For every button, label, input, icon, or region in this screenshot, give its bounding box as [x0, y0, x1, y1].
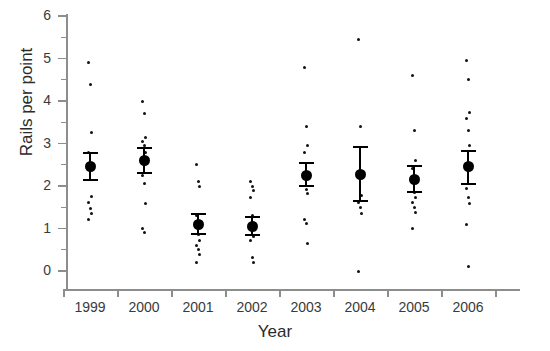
y-tick-major	[58, 185, 66, 187]
data-point	[251, 185, 254, 188]
data-point	[143, 112, 146, 115]
error-bar-cap-lower	[83, 179, 98, 181]
data-point	[413, 129, 416, 132]
data-point	[252, 261, 255, 264]
data-point	[467, 129, 470, 132]
x-tick-major	[63, 289, 65, 297]
data-point	[144, 202, 147, 205]
data-point	[468, 202, 471, 205]
data-point	[414, 159, 417, 162]
x-axis-title: Year	[0, 322, 550, 342]
data-point	[305, 222, 308, 225]
x-tick-major	[333, 289, 335, 297]
y-tick-major	[58, 15, 66, 17]
data-point	[305, 125, 308, 128]
data-point	[90, 212, 93, 215]
data-point	[303, 66, 306, 69]
data-point	[305, 188, 308, 191]
error-bar-cap-upper	[407, 165, 422, 167]
data-point	[197, 180, 200, 183]
x-tick-major	[387, 289, 389, 297]
x-tick-major	[117, 289, 119, 297]
y-axis-title: Rails per point	[17, 0, 37, 207]
data-point	[144, 136, 147, 139]
data-point	[251, 256, 254, 259]
scatter-plot-figure: 0123456 19992000200120022003200420052006…	[0, 0, 550, 351]
data-point	[306, 192, 309, 195]
error-bar-cap-lower	[299, 185, 314, 187]
error-bar-cap-upper	[245, 216, 260, 218]
mean-marker	[247, 221, 258, 232]
data-point	[357, 270, 360, 273]
y-tick-major	[58, 228, 66, 230]
error-bar-cap-upper	[83, 152, 98, 154]
x-tick-major	[171, 289, 173, 297]
x-tick-major	[279, 289, 281, 297]
mean-marker	[463, 161, 474, 172]
y-tick-major	[58, 270, 66, 272]
x-tick-major	[495, 289, 497, 297]
mean-marker	[355, 169, 366, 180]
error-bar-cap-lower	[407, 191, 422, 193]
error-bar-cap-upper	[299, 162, 314, 164]
mean-marker	[85, 161, 96, 172]
y-tick-label: 0	[21, 263, 51, 277]
error-bar-cap-lower	[353, 200, 368, 202]
error-bar-cap-lower	[137, 172, 152, 174]
data-point	[360, 212, 363, 215]
mean-marker	[193, 219, 204, 230]
error-bar-cap-upper	[461, 150, 476, 152]
y-tick-label: 1	[21, 221, 51, 235]
data-point	[197, 248, 200, 251]
error-bar-cap-upper	[191, 213, 206, 215]
data-point	[414, 211, 417, 214]
data-point	[198, 239, 201, 242]
y-tick-major	[58, 100, 66, 102]
data-point	[468, 144, 471, 147]
data-point	[89, 207, 92, 210]
x-tick-label: 2006	[433, 300, 503, 314]
data-point	[252, 189, 255, 192]
data-point	[89, 83, 92, 86]
error-bar-cap-lower	[191, 233, 206, 235]
data-point	[306, 242, 309, 245]
data-point	[141, 100, 144, 103]
error-bar-cap-upper	[353, 146, 368, 148]
data-point	[306, 144, 309, 147]
mean-marker	[139, 155, 150, 166]
mean-marker	[301, 170, 312, 181]
data-point	[467, 78, 470, 81]
data-point	[303, 151, 306, 154]
error-bar-cap-lower	[461, 183, 476, 185]
data-point	[143, 231, 146, 234]
mean-marker	[409, 174, 420, 185]
error-bar-cap-upper	[137, 147, 152, 149]
data-point	[467, 265, 470, 268]
x-axis-line	[65, 289, 520, 291]
y-tick-major	[58, 58, 66, 60]
data-point	[359, 206, 362, 209]
error-bar-cap-lower	[245, 234, 260, 236]
data-point	[359, 125, 362, 128]
data-point	[465, 117, 468, 120]
data-point	[413, 206, 416, 209]
plot-area	[66, 16, 518, 271]
y-tick-major	[58, 143, 66, 145]
data-point	[90, 195, 93, 198]
x-tick-major	[225, 289, 227, 297]
data-point	[198, 185, 201, 188]
x-tick-major	[441, 289, 443, 297]
